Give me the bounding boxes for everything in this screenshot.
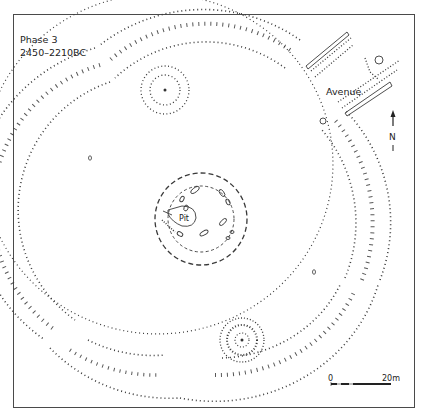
inner-bank-edge xyxy=(18,42,356,358)
avenue-stone xyxy=(375,56,383,64)
station-stone-nw xyxy=(89,156,92,160)
outer-bank xyxy=(0,0,333,334)
main-ditch xyxy=(0,24,373,375)
scale-start-label: 0 xyxy=(328,374,333,383)
station-stone-se xyxy=(313,270,316,275)
avenue xyxy=(306,32,400,116)
site-plan: Avenue Pit N 0 20m xyxy=(0,0,426,420)
north-arrow xyxy=(391,110,396,151)
scale-end-label: 20m xyxy=(382,374,400,383)
north-label: N xyxy=(389,132,396,142)
north-barrow xyxy=(141,66,189,114)
pit-label: Pit xyxy=(179,214,189,223)
avenue-label: Avenue xyxy=(326,86,361,97)
sarsen-circle xyxy=(155,173,247,265)
heel-stone xyxy=(320,118,326,124)
outer-ditch-edge xyxy=(0,10,391,402)
